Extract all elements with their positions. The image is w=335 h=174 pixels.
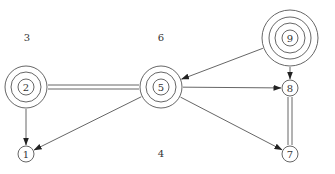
node-label: 7 bbox=[287, 149, 293, 160]
arrow-edge-line bbox=[183, 87, 281, 88]
edge-2-5 bbox=[48, 85, 139, 89]
edge-5-8 bbox=[183, 87, 281, 88]
edges-layer bbox=[26, 48, 292, 150]
node-8[interactable]: 8 bbox=[282, 80, 298, 96]
node-label: 8 bbox=[287, 83, 293, 94]
free-label-6: 6 bbox=[158, 32, 164, 43]
node-label: 9 bbox=[287, 33, 293, 44]
graph-diagram: 125789 364 bbox=[0, 0, 335, 174]
arrow-edge-line bbox=[182, 48, 263, 79]
graph-canvas: 125789 364 bbox=[0, 0, 335, 174]
node-7[interactable]: 7 bbox=[282, 146, 298, 162]
edge-9-5 bbox=[182, 48, 263, 79]
arrow-edge-line bbox=[34, 97, 141, 150]
edge-8-7 bbox=[288, 97, 292, 145]
free-label-3: 3 bbox=[24, 32, 30, 43]
node-2[interactable]: 2 bbox=[5, 66, 47, 108]
node-5[interactable]: 5 bbox=[140, 66, 182, 108]
edge-5-1 bbox=[34, 97, 141, 150]
edge-5-7 bbox=[181, 97, 282, 150]
node-label: 5 bbox=[158, 82, 164, 93]
arrow-edge-line bbox=[181, 97, 282, 150]
node-9[interactable]: 9 bbox=[262, 10, 318, 66]
node-1[interactable]: 1 bbox=[18, 146, 34, 162]
node-label: 1 bbox=[23, 149, 29, 160]
node-label: 2 bbox=[23, 82, 29, 93]
free-label-4: 4 bbox=[158, 148, 164, 159]
